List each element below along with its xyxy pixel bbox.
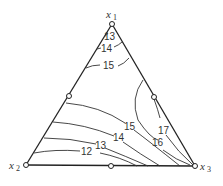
contour-label-14-low: 14 (113, 132, 125, 143)
contour-label-12-low: 12 (81, 146, 93, 157)
contour-label-16: 16 (152, 137, 164, 148)
vertex-label-x2: x (8, 159, 14, 171)
design-point-mid-12 (67, 94, 72, 99)
design-point-mid-13 (152, 95, 157, 100)
design-point-x2 (24, 163, 29, 168)
contour-label-17: 17 (158, 125, 170, 136)
contour-label-13-top: 13 (104, 31, 116, 42)
contour-label-14-top: 14 (101, 43, 113, 54)
contour-label-15-top: 15 (103, 60, 115, 71)
vertex-sub-x1: 1 (113, 13, 117, 22)
vertex-label-x1: x (105, 8, 111, 20)
design-point-x1 (110, 22, 115, 27)
design-point-mid-23 (109, 164, 114, 169)
contour-label-15-low: 15 (124, 121, 136, 132)
contour-label-13-low: 13 (95, 140, 107, 151)
ternary-diagram: 13 14 15 15 14 13 12 16 17 x 1 x 2 x 3 (0, 0, 223, 186)
vertex-sub-x2: 2 (16, 164, 20, 173)
design-point-x3 (193, 164, 198, 169)
vertex-sub-x3: 3 (207, 165, 211, 174)
vertex-label-x3: x (199, 160, 205, 172)
